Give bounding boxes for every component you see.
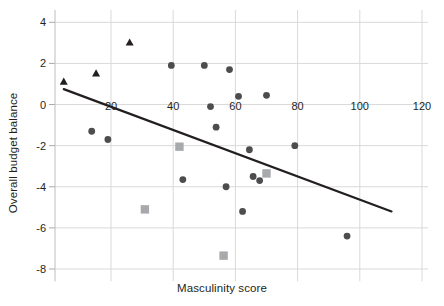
y-tick-label: 0 — [40, 99, 46, 111]
data-point-circle — [256, 177, 263, 184]
data-markers — [60, 38, 351, 259]
data-point-circle — [207, 103, 214, 110]
x-tick-label: 120 — [413, 100, 431, 112]
data-point-circle — [239, 208, 246, 215]
data-point-circle — [291, 142, 298, 149]
x-tick-label: 80 — [291, 100, 303, 112]
regression-line — [64, 89, 392, 211]
y-tick-label: 4 — [40, 16, 46, 28]
data-point-circle — [226, 66, 233, 73]
y-tick-label: -8 — [36, 263, 46, 275]
data-point-circle — [213, 124, 220, 131]
data-point-circle — [179, 176, 186, 183]
data-point-circle — [201, 62, 208, 69]
data-point-circle — [344, 233, 351, 240]
x-tick-label: 40 — [167, 100, 179, 112]
gridlines — [49, 10, 428, 281]
data-point-triangle — [60, 77, 68, 84]
data-point-square — [141, 205, 149, 213]
trend-line — [64, 89, 392, 211]
data-point-circle — [246, 146, 253, 153]
y-tick-label: 2 — [40, 57, 46, 69]
data-point-circle — [168, 62, 175, 69]
data-point-square — [175, 142, 183, 150]
data-point-circle — [263, 92, 270, 99]
data-point-triangle — [126, 38, 134, 45]
data-point-circle — [104, 136, 111, 143]
x-tick-label: 100 — [351, 100, 369, 112]
x-tick-label: 60 — [229, 100, 241, 112]
data-point-triangle — [92, 69, 100, 76]
data-point-circle — [88, 128, 95, 135]
data-point-circle — [235, 93, 242, 100]
data-point-circle — [223, 183, 230, 190]
scatter-chart: Overall budget balance Masculinity score… — [0, 0, 444, 306]
y-tick-label: -2 — [36, 140, 46, 152]
plot-area: 420-2-4-6-820406080100120 — [0, 0, 444, 306]
data-point-square — [262, 169, 270, 177]
y-tick-label: -6 — [36, 222, 46, 234]
data-point-circle — [250, 173, 257, 180]
y-tick-label: -4 — [36, 181, 46, 193]
data-point-square — [219, 251, 227, 259]
